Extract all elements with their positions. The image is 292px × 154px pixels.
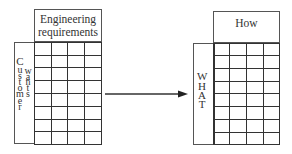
left-header-line-1: Engineering bbox=[35, 13, 101, 26]
what-letter: T bbox=[197, 99, 207, 109]
left-header-line-2: requirements bbox=[35, 26, 101, 39]
transform-arrow bbox=[104, 88, 190, 100]
right-relationship-grid bbox=[213, 43, 280, 145]
right-header-label: How bbox=[214, 17, 279, 30]
customer-letter: r bbox=[15, 102, 25, 112]
left-header-box: Engineering requirements bbox=[34, 9, 102, 42]
left-relationship-grid bbox=[34, 42, 102, 145]
wants-letter: s bbox=[23, 89, 33, 99]
right-header-box: How bbox=[213, 11, 280, 43]
